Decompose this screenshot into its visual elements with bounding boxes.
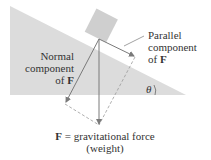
normal-label-line3: of F xyxy=(22,74,74,86)
force-equals-text: = gravitational force xyxy=(62,130,155,142)
angle-theta-label: θ xyxy=(146,83,151,95)
parallel-component-label: Parallel component of F xyxy=(148,29,197,65)
force-caption: F = gravitational force (weight) xyxy=(40,130,170,154)
block xyxy=(85,9,118,43)
parallel-component-arrow xyxy=(99,39,134,56)
parallel-label-prefix: of xyxy=(148,53,160,65)
normal-label-prefix: of xyxy=(55,74,67,86)
parallel-label-symbol: F xyxy=(160,53,167,65)
normal-component-label: Normal component of F xyxy=(22,50,74,86)
dashed-line-bottom xyxy=(65,104,99,125)
parallel-label-line2: component xyxy=(148,41,197,53)
normal-label-line2: component xyxy=(22,62,74,74)
force-caption-line2: (weight) xyxy=(40,142,170,154)
normal-label-symbol: F xyxy=(67,74,74,86)
parallel-leader-line xyxy=(124,36,144,46)
parallel-label-line3: of F xyxy=(148,53,197,65)
normal-label-line1: Normal xyxy=(22,50,74,62)
parallel-label-line1: Parallel xyxy=(148,29,197,41)
force-caption-line1: F = gravitational force xyxy=(40,130,170,142)
